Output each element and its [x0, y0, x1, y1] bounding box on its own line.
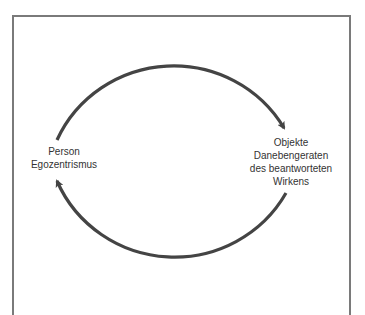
edge-person-to-objekte — [57, 66, 284, 140]
node-objekte: Objekte Danebengeraten des beantworteten… — [241, 136, 341, 188]
node-person-subtitle: Egozentrismus — [24, 158, 104, 171]
node-person: Person Egozentrismus — [24, 145, 104, 171]
node-person-title: Person — [24, 145, 104, 158]
node-objekte-line-4: Wirkens — [241, 175, 341, 188]
edge-objekte-to-person — [57, 181, 286, 257]
node-objekte-line-1: Objekte — [241, 136, 341, 149]
node-objekte-line-3: des beantworteten — [241, 162, 341, 175]
node-objekte-line-2: Danebengeraten — [241, 149, 341, 162]
